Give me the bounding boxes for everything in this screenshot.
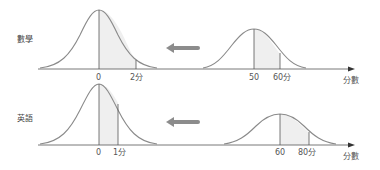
tick-label-math-z2: 2分 [130, 74, 143, 82]
axis-label-english: 分數 [343, 153, 359, 161]
tick-label-english-mean: 60 [275, 149, 285, 157]
tick-label-english-score: 80分 [298, 149, 316, 157]
normal-curve-english-z [40, 84, 157, 144]
tick-label-math-z0: 0 [96, 74, 101, 82]
standardization-diagram: 數學 英語 0 2分 50 60分 分數 0 1分 60 80分 分數 [0, 0, 380, 170]
axis-label-math: 分數 [343, 77, 359, 85]
axis-arrowhead-math [348, 67, 355, 72]
tick-label-math-score: 60分 [273, 74, 291, 82]
axis-arrowhead-english [348, 143, 355, 148]
tick-label-english-z1: 1分 [113, 149, 126, 157]
normal-curve-math-z [40, 10, 157, 68]
tick-label-math-mean: 50 [249, 74, 259, 82]
shift-arrow-math-head [166, 43, 174, 53]
shift-arrow-english-head [166, 117, 174, 127]
subject-label-english: 英語 [17, 112, 33, 123]
subject-label-math: 數學 [17, 33, 33, 44]
tick-label-english-z0: 0 [96, 149, 101, 157]
shaded-area-math-z [99, 10, 136, 69]
diagram-graphics [0, 0, 380, 170]
